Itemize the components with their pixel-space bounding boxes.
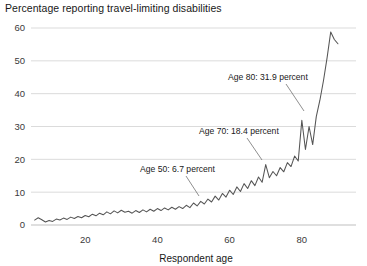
chart-container: Percentage reporting travel-limiting dis… <box>0 0 367 266</box>
y-tick-30: 30 <box>14 121 25 132</box>
x-tick-80: 80 <box>297 234 308 245</box>
annotation-label-age-70: Age 70: 18.4 percent <box>199 126 279 136</box>
annotations: Age 50: 6.7 percentAge 70: 18.4 percentA… <box>140 72 308 196</box>
annotation-leader-age-70 <box>247 138 262 160</box>
x-axis-title: Respondent age <box>159 253 233 264</box>
y-tick-0: 0 <box>20 219 25 230</box>
x-tick-40: 40 <box>152 234 163 245</box>
x-axis-tick-labels: 20406080 <box>80 234 307 245</box>
y-tick-60: 60 <box>14 22 25 33</box>
annotation-label-age-80: Age 80: 31.9 percent <box>228 72 308 82</box>
y-tick-50: 50 <box>14 55 25 66</box>
annotation-leader-age-80 <box>286 84 304 111</box>
y-tick-10: 10 <box>14 187 25 198</box>
x-tick-20: 20 <box>80 234 91 245</box>
y-tick-40: 40 <box>14 88 25 99</box>
y-tick-20: 20 <box>14 154 25 165</box>
annotation-label-age-50: Age 50: 6.7 percent <box>140 164 216 174</box>
annotation-leader-age-50 <box>186 176 199 196</box>
line-chart-plot: 0102030405060 20406080 Age 50: 6.7 perce… <box>0 0 367 266</box>
x-tick-60: 60 <box>224 234 235 245</box>
gridlines <box>31 28 356 225</box>
y-axis-tick-labels: 0102030405060 <box>14 22 25 230</box>
